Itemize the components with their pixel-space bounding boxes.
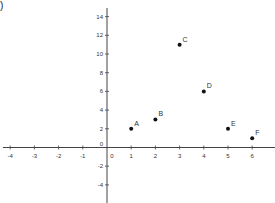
x-tick-label: -4: [8, 153, 14, 159]
y-tick-label: 2: [100, 126, 104, 132]
point-label: A: [134, 120, 139, 127]
y-tick-label: -4: [98, 182, 104, 188]
data-point: [178, 43, 182, 47]
x-origin-label: 0: [110, 153, 114, 159]
y-tick-label: 12: [96, 32, 103, 38]
y-tick-label: 10: [96, 51, 103, 57]
data-point: [250, 136, 254, 140]
x-tick-label: -1: [80, 153, 86, 159]
data-point: [202, 89, 206, 93]
data-point: [129, 127, 133, 131]
x-tick-label: 2: [154, 153, 158, 159]
point-label: C: [183, 36, 188, 43]
scatter-plot: -4-3-2-11234560-4-202468101214ABCDEF: [0, 0, 275, 203]
y-tick-label: 8: [100, 70, 104, 76]
x-tick-label: 5: [226, 153, 230, 159]
x-tick-label: -3: [32, 153, 38, 159]
x-tick-label: 3: [178, 153, 182, 159]
point-label: F: [255, 129, 259, 136]
x-tick-label: 6: [251, 153, 255, 159]
y-tick-label: 14: [96, 14, 103, 20]
x-tick-label: -2: [56, 153, 62, 159]
y-tick-label: 4: [100, 107, 104, 113]
x-tick-label: 4: [202, 153, 206, 159]
point-label: B: [158, 110, 163, 117]
data-point: [153, 117, 157, 121]
y-tick-label: 6: [100, 88, 104, 94]
x-tick-label: 1: [130, 153, 134, 159]
point-label: E: [231, 120, 236, 127]
data-point: [226, 127, 230, 131]
y-tick-label: 0: [100, 141, 104, 147]
point-label: D: [207, 82, 212, 89]
y-tick-label: -2: [98, 163, 104, 169]
